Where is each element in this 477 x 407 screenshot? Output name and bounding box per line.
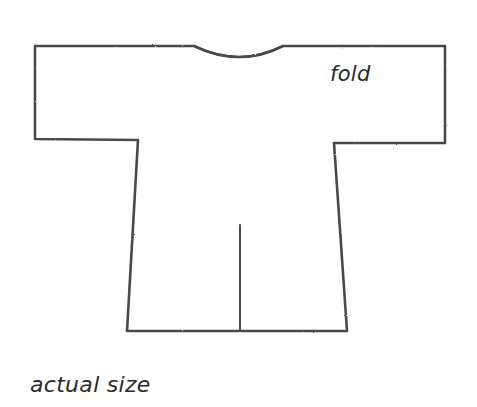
neckline-curve — [194, 46, 283, 57]
tunic-pattern-outline — [0, 0, 477, 407]
caption-actual-size: actual size — [30, 372, 151, 397]
fold-label: fold — [330, 62, 371, 86]
